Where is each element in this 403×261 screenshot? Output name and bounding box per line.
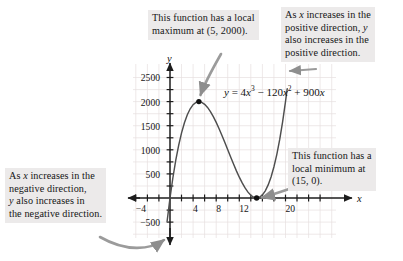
negative-direction-callout-line-4: the negative direction. bbox=[9, 208, 102, 221]
y-tick-label-500: 500 bbox=[126, 169, 160, 180]
positive-direction-callout: As x increases in the positive direction… bbox=[281, 7, 375, 62]
equation-term2-exponent: 2 bbox=[288, 84, 292, 93]
equation-operator1: − bbox=[258, 86, 264, 98]
equation-term3-var: x bbox=[320, 86, 325, 98]
local-minimum-callout-line-1: This function has a bbox=[292, 150, 372, 163]
negative-direction-callout-line-3: y also increases in bbox=[9, 195, 102, 208]
x-axis-label: x bbox=[357, 193, 362, 204]
local-maximum-callout-line-1: This function has a local bbox=[152, 12, 255, 25]
positive-direction-callout-line-1: As x increases in the bbox=[285, 9, 371, 22]
negative-direction-callout: As x increases in the negative direction… bbox=[5, 168, 106, 223]
pos-line1-pre: As bbox=[285, 9, 299, 20]
function-equation: y = 4x3 − 120x2 + 900x bbox=[224, 84, 325, 98]
equation-lhs: y bbox=[224, 86, 229, 98]
local-maximum-callout: This function has a local maximum at (5,… bbox=[148, 10, 259, 40]
positive-direction-callout-line-3: also increases in the bbox=[285, 34, 371, 47]
positive-direction-callout-line-4: positive direction. bbox=[285, 47, 371, 60]
equation-term2-coef: 120 bbox=[266, 86, 283, 98]
local-minimum-callout-line-2: local minimum at bbox=[292, 163, 372, 176]
local-maximum-point bbox=[196, 99, 201, 104]
neg-line1-pre: As bbox=[9, 170, 23, 181]
pos-line2-pre: positive direction, bbox=[285, 22, 363, 33]
equation-term3-coef: 900 bbox=[303, 86, 320, 98]
local-minimum-point bbox=[254, 195, 259, 200]
local-maximum-callout-line-2: maximum at (5, 2000). bbox=[152, 25, 255, 38]
equation-term1-exponent: 3 bbox=[251, 84, 255, 93]
negative-direction-callout-line-1: As x increases in the bbox=[9, 170, 102, 183]
y-tick-label-2500: 2500 bbox=[126, 72, 160, 83]
local-minimum-callout: This function has a local minimum at (15… bbox=[288, 148, 376, 191]
neg-line3-post: also increases in bbox=[14, 195, 85, 206]
y-axis-label: y bbox=[167, 53, 172, 64]
y-tick-label-1500: 1500 bbox=[126, 121, 160, 132]
y-tick-label-1000: 1000 bbox=[126, 145, 160, 156]
neg-line1-post: increases in the bbox=[28, 170, 95, 181]
local-minimum-callout-line-3: (15, 0). bbox=[292, 175, 372, 188]
negative-direction-callout-line-2: negative direction, bbox=[9, 183, 102, 196]
y-tick-label-minus-500: −500 bbox=[122, 217, 160, 228]
pos-line2-var-y: y bbox=[363, 22, 368, 33]
equation-operator2: + bbox=[294, 86, 300, 98]
pos-line1-post: increases in the bbox=[304, 9, 371, 20]
positive-direction-callout-line-2: positive direction, y bbox=[285, 22, 371, 35]
equation-equals: = bbox=[232, 86, 238, 98]
y-tick-label-2000: 2000 bbox=[126, 97, 160, 108]
